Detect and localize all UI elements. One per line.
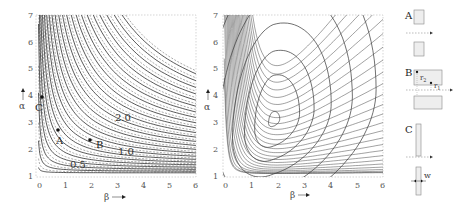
point-C [40,95,44,99]
svg-text:A: A [404,10,413,21]
arrow-right-icon [122,195,126,199]
svg-text:α: α [204,102,210,112]
contour-label-0.5: 0.5 [70,159,86,170]
svg-text:5: 5 [167,181,172,190]
svg-text:7: 7 [28,11,33,20]
svg-text:6: 6 [213,38,218,47]
svg-text:4: 4 [328,181,333,190]
right-y-ticks: 1 2 3 4 5 6 7 [213,11,218,181]
svg-text:5: 5 [213,64,218,73]
svg-text:2: 2 [276,181,281,190]
arrow-right-icon [306,193,310,197]
svg-text:5: 5 [28,64,33,73]
svg-text:4: 4 [141,181,146,190]
svg-text:2: 2 [28,145,33,154]
svg-text:5: 5 [355,181,360,190]
arrow-right-icon [430,156,433,159]
svg-text:3: 3 [28,118,33,127]
geometry-diagram-A: A [404,10,433,56]
svg-text:2: 2 [89,181,94,190]
svg-text:0: 0 [37,181,42,190]
svg-text:B: B [405,67,412,78]
svg-text:6: 6 [193,181,198,190]
svg-text:A: A [55,135,64,146]
right-y-axis-label: α [204,89,210,112]
left-x-axis-label: β [104,192,126,202]
svg-text:3: 3 [115,181,120,190]
contour-label-1.0: 1.0 [118,146,134,157]
svg-text:0: 0 [223,181,228,190]
left-x-ticks: 0 1 2 3 4 5 6 [37,181,198,190]
svg-text:1: 1 [213,172,218,181]
point-A [56,128,60,132]
svg-text:2: 2 [213,145,218,154]
svg-text:β: β [104,192,109,202]
right-contours [201,0,388,204]
svg-text:C: C [35,102,43,113]
right-x-ticks: 0 1 2 3 4 5 6 [223,181,385,190]
svg-text:3: 3 [213,118,218,127]
svg-text:6: 6 [380,181,385,190]
geometry-diagram-B: B r2 r1 [405,67,453,109]
svg-text:α: α [19,101,25,111]
svg-text:1: 1 [63,181,68,190]
arrow-right-icon [430,32,433,35]
point-B [88,138,92,142]
right-contour-plot: 1 2 3 4 5 6 7 0 1 2 3 4 5 6 β α [201,0,388,204]
arrow-right-icon [450,89,453,92]
svg-text:7: 7 [213,11,218,20]
right-x-axis-label: β [290,190,310,200]
contour-label-2.0: 2.0 [115,112,131,123]
svg-text:β: β [290,190,295,200]
svg-text:1: 1 [28,172,33,181]
left-contour-plot: 1 2 3 4 5 6 7 0 1 2 3 4 5 6 β α [19,7,198,202]
arrow-up-icon [206,89,210,93]
svg-text:4: 4 [28,91,33,100]
svg-text:C: C [405,124,413,135]
svg-text:6: 6 [28,38,33,47]
svg-text:3: 3 [302,181,307,190]
svg-text:4: 4 [213,91,218,100]
arrow-up-icon [21,88,25,92]
svg-text:1: 1 [249,181,254,190]
geometry-diagram-C: C w [405,124,433,195]
svg-text:B: B [96,139,103,150]
left-y-ticks: 1 2 3 4 5 6 7 [28,11,33,181]
svg-text:w: w [424,171,431,180]
left-y-axis-label: α [19,88,25,111]
